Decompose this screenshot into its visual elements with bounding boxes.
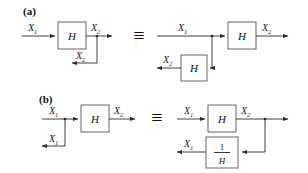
a-left-block-H-label: H xyxy=(67,30,77,42)
b-right-input-label: X1 xyxy=(183,105,193,118)
b-right-inverse-H-denominator: H xyxy=(218,156,226,166)
b-right-block-H-forward-label: H xyxy=(217,113,227,125)
block-diagram-figure: (a) H X1 X2 X2 ≡ H xyxy=(0,0,308,173)
a-right-feedback-down-wire xyxy=(210,36,212,68)
a-right-output-label: X2 xyxy=(261,22,272,35)
b-right-feedback-label: X1 xyxy=(183,138,193,151)
b-right-output-label: X2 xyxy=(240,105,251,118)
a-right-block-H-feedback-label: H xyxy=(189,62,199,74)
a-right-feedback-label: X2 xyxy=(162,54,173,67)
a-left-output-label: X2 xyxy=(90,22,101,35)
a-equivalence-symbol: ≡ xyxy=(133,24,144,46)
a-right-input-label: X1 xyxy=(177,22,187,35)
diagram-canvas: (a) H X1 X2 X2 ≡ H xyxy=(0,0,308,173)
a-right-block-H-forward-label: H xyxy=(237,30,247,42)
b-equivalence-symbol: ≡ xyxy=(151,106,162,128)
b-left-input-label: X1 xyxy=(48,105,58,118)
a-left-input-label: X1 xyxy=(27,22,37,35)
a-left-feedback-label: X2 xyxy=(75,50,86,63)
b-left-block-H-label: H xyxy=(90,113,100,125)
b-left-output-label: X2 xyxy=(113,105,124,118)
b-left-tap-label: X1 xyxy=(48,133,58,146)
b-right-inverse-H-numerator: 1 xyxy=(220,142,225,152)
panel-a-label: (a) xyxy=(23,5,36,18)
b-right-feedback-down-wire xyxy=(242,119,265,152)
